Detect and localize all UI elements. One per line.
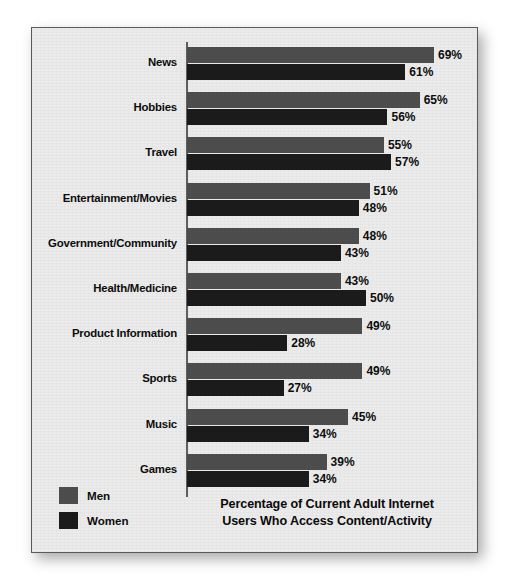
bar-value-label: 34%	[313, 472, 337, 486]
bar-value-label: 34%	[313, 427, 337, 441]
category-label: Health/Medicine	[31, 282, 177, 294]
bar-value-label: 43%	[345, 246, 369, 260]
figure-page: News69%61%Hobbies65%56%Travel55%57%Enter…	[0, 0, 505, 580]
category-label: Games	[31, 463, 177, 475]
legend-item-men: Men	[59, 483, 189, 508]
category-label: Sports	[31, 372, 177, 384]
bar-value-label: 43%	[345, 274, 369, 288]
category-label: Entertainment/Movies	[31, 192, 177, 204]
chart-row: Hobbies65%56%	[32, 92, 478, 133]
chart-row: Health/Medicine43%50%	[32, 273, 478, 314]
chart-row: Sports49%27%	[32, 363, 478, 404]
chart-frame: News69%61%Hobbies65%56%Travel55%57%Enter…	[31, 27, 478, 553]
chart-title: Percentage of Current Adult Internet Use…	[182, 496, 472, 529]
bar-value-label: 49%	[366, 319, 390, 333]
bar-value-label: 48%	[363, 229, 387, 243]
bar-men: 39%	[187, 454, 327, 470]
category-label: News	[31, 56, 177, 68]
legend-label-women: Women	[87, 514, 129, 527]
chart-title-line-1: Percentage of Current Adult Internet	[182, 496, 472, 513]
bar-men: 48%	[187, 228, 359, 244]
chart-legend: Men Women	[59, 483, 189, 533]
bar-value-label: 50%	[370, 291, 394, 305]
bar-value-label: 65%	[424, 93, 448, 107]
bar-women: 28%	[187, 335, 287, 351]
category-label: Music	[31, 418, 177, 430]
bar-value-label: 39%	[331, 455, 355, 469]
bar-men: 45%	[187, 409, 348, 425]
bar-women: 56%	[187, 109, 387, 125]
chart-row: Product Information49%28%	[32, 318, 478, 359]
bar-value-label: 45%	[352, 410, 376, 424]
category-label: Travel	[31, 146, 177, 158]
bar-women: 61%	[187, 64, 405, 80]
bar-women: 50%	[187, 290, 366, 306]
bar-women: 34%	[187, 426, 309, 442]
bar-value-label: 28%	[291, 336, 315, 350]
bar-value-label: 61%	[409, 65, 433, 79]
bar-value-label: 55%	[388, 138, 412, 152]
bar-women: 43%	[187, 245, 341, 261]
bar-women: 48%	[187, 200, 359, 216]
bar-women: 34%	[187, 471, 309, 487]
category-label: Government/Community	[31, 237, 177, 249]
bar-value-label: 49%	[366, 364, 390, 378]
bar-men: 49%	[187, 318, 362, 334]
bar-men: 43%	[187, 273, 341, 289]
plot-area: News69%61%Hobbies65%56%Travel55%57%Enter…	[32, 28, 478, 553]
bar-men: 69%	[187, 47, 434, 63]
bar-value-label: 48%	[363, 201, 387, 215]
bar-women: 57%	[187, 154, 391, 170]
chart-title-line-2: Users Who Access Content/Activity	[182, 513, 472, 530]
bar-men: 51%	[187, 183, 370, 199]
bar-value-label: 51%	[374, 184, 398, 198]
category-label: Product Information	[31, 327, 177, 339]
bar-value-label: 57%	[395, 155, 419, 169]
bar-men: 55%	[187, 137, 384, 153]
chart-row: Music45%34%	[32, 409, 478, 450]
bar-value-label: 56%	[391, 110, 415, 124]
bar-value-label: 27%	[288, 381, 312, 395]
legend-item-women: Women	[59, 508, 189, 533]
legend-swatch-women	[59, 512, 78, 529]
bar-men: 65%	[187, 92, 420, 108]
category-label: Hobbies	[31, 101, 177, 113]
legend-label-men: Men	[87, 489, 110, 502]
chart-row: News69%61%	[32, 47, 478, 88]
bar-value-label: 69%	[438, 48, 462, 62]
chart-row: Government/Community48%43%	[32, 228, 478, 269]
bar-men: 49%	[187, 363, 362, 379]
legend-swatch-men	[59, 487, 78, 504]
chart-row: Entertainment/Movies51%48%	[32, 183, 478, 224]
chart-row: Travel55%57%	[32, 137, 478, 178]
bar-women: 27%	[187, 380, 284, 396]
